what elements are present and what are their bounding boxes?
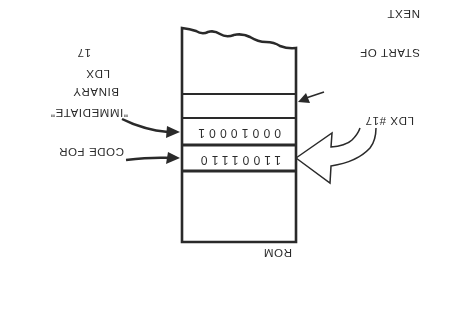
rom-label: ROM [263,246,292,259]
opcode-label-line1: CODE FOR [50,145,124,158]
opcode-arrow [126,152,180,164]
operand-label-line1: BINARY [73,85,119,98]
next-label-line1: START OF [335,46,420,59]
operand-label-line2: 17 [73,46,91,59]
opcode-cell-bits: 11001110 [197,153,281,167]
operand-cell-bits: 00010001 [194,126,281,140]
rom-instruction-diagram: 11001110 00010001 CODE FOR "IMMEDIATE" L… [0,0,452,310]
ldx-hollow-arrow [296,128,376,183]
next-label-line2: NEXT [335,7,420,20]
instruction-label: LDX #17 [365,114,414,127]
next-instruction-arrow [298,92,324,103]
operand-arrow [122,119,180,138]
operand-label: BINARY 17 [73,20,119,124]
next-instruction-label: START OF NEXT INSTRUCTION [335,0,420,85]
